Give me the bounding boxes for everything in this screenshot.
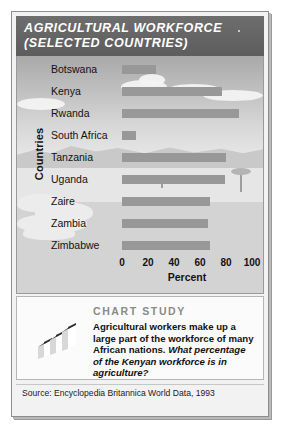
table-row: Botswana (17, 62, 263, 84)
table-row: Kenya (17, 84, 263, 106)
x-axis-label: Percent (168, 271, 207, 283)
figure-title-line-2: (SELECTED COUNTRIES) (24, 36, 264, 51)
table-row: Zambia (17, 216, 263, 238)
category-label: Uganda (51, 173, 88, 185)
category-label: Botswana (51, 63, 97, 75)
bar-kenya (122, 87, 222, 96)
bar-rwanda (122, 109, 239, 118)
category-label: Zaire (51, 195, 75, 207)
table-row: Zaire (17, 194, 263, 216)
table-row: South Africa (17, 128, 263, 150)
x-tick-100: 100 (244, 257, 261, 268)
figure-title-band: AGRICULTURAL WORKFORCE (SELECTED COUNTRI… (16, 16, 264, 56)
chart-study-heading: CHART STUDY (93, 305, 186, 317)
bar-tanzania (122, 153, 226, 162)
source-divider (16, 384, 264, 385)
chart-plot-area: Countries Botswana Kenya Rwanda South Af… (16, 56, 264, 294)
category-label: Zimbabwe (51, 239, 99, 251)
figure-title-line-1: AGRICULTURAL WORKFORCE (24, 21, 264, 36)
category-label: Zambia (51, 217, 86, 229)
x-tick-0: 0 (119, 257, 125, 268)
x-tick-80: 80 (220, 257, 231, 268)
category-label: Kenya (51, 85, 81, 97)
category-label: South Africa (51, 129, 108, 141)
chart-figure: AGRICULTURAL WORKFORCE (SELECTED COUNTRI… (11, 11, 269, 417)
bar-botswana (122, 65, 156, 74)
x-axis: 0 20 40 60 80 100 Percent (17, 257, 263, 291)
title-speck (238, 30, 240, 32)
table-row: Rwanda (17, 106, 263, 128)
bar-zimbabwe (122, 241, 210, 250)
source-citation: Source: Encyclopedia Britannica World Da… (16, 388, 264, 398)
table-row: Tanzania (17, 150, 263, 172)
category-label: Tanzania (51, 151, 93, 163)
chart-study-box: CHART STUDY Agricultural workers make up… (16, 296, 264, 380)
category-label: Rwanda (51, 107, 90, 119)
bar-zaire (122, 197, 210, 206)
x-tick-40: 40 (168, 257, 179, 268)
bar-south-africa (122, 131, 136, 140)
bar-chart-3d-icon (35, 319, 81, 359)
x-tick-60: 60 (194, 257, 205, 268)
table-row: Uganda (17, 172, 263, 194)
x-tick-20: 20 (142, 257, 153, 268)
bar-uganda (122, 175, 225, 184)
bar-zambia (122, 219, 208, 228)
chart-study-body: Agricultural workers make up a large par… (93, 321, 255, 379)
